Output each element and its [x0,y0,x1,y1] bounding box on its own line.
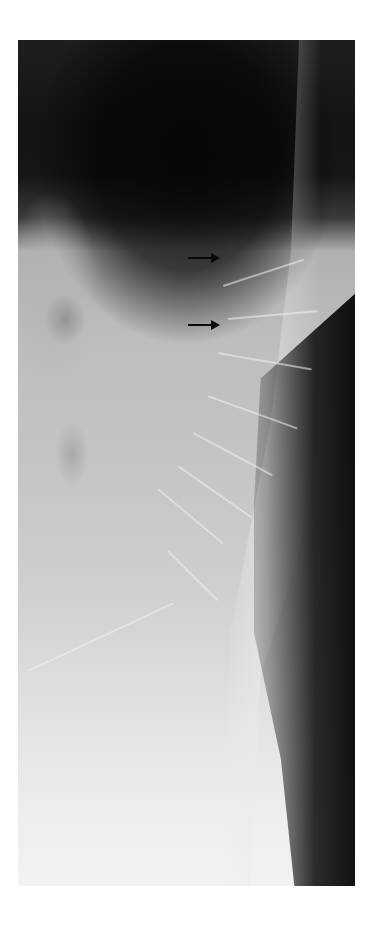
xray-image [18,40,355,886]
annotation-arrow-1 [188,257,212,259]
annotation-arrow-2 [188,324,212,326]
